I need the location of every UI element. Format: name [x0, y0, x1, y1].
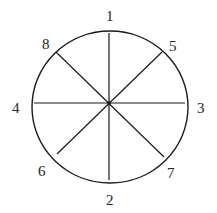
outer-circle: [32, 31, 188, 183]
label-4: 4: [12, 100, 20, 116]
label-1: 1: [106, 8, 114, 24]
label-3: 3: [197, 100, 205, 116]
label-6: 6: [38, 163, 46, 179]
label-7: 7: [167, 165, 175, 181]
label-8: 8: [42, 36, 50, 52]
line-8-7: [56, 52, 164, 157]
center-point: [107, 101, 111, 105]
label-5: 5: [169, 38, 177, 54]
label-2: 2: [106, 192, 114, 208]
radial-circle-diagram: 1 2 3 4 5 6 7 8: [0, 0, 217, 213]
